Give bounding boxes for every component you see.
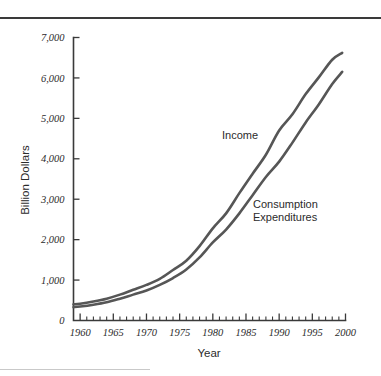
y-axis-ticks [74, 38, 80, 281]
axes [74, 38, 346, 321]
line-chart-plot: 01,0002,0003,0004,0005,0006,0007,000 196… [0, 0, 381, 376]
y-tick-label: 7,000 [41, 32, 65, 43]
y-axis-tick-labels: 01,0002,0003,0004,0005,0006,0007,000 [40, 32, 65, 326]
series-annotations: IncomeConsumptionExpenditures [222, 129, 318, 223]
axis-lines [74, 38, 346, 321]
x-tick-label: 1990 [269, 327, 291, 338]
y-tick-label: 2,000 [41, 234, 65, 245]
chart-figure: 01,0002,0003,0004,0005,0006,0007,000 196… [0, 0, 381, 376]
series-line-income [74, 53, 343, 304]
x-axis-tick-labels: 196019651970197519801985199019952000 [70, 327, 357, 338]
series-annotation-label: Income [222, 129, 258, 141]
x-axis-title: Year [197, 347, 220, 359]
x-tick-label: 1980 [202, 327, 224, 338]
data-series-group [74, 53, 343, 307]
x-tick-label: 1985 [235, 327, 256, 338]
series-annotation-label: Consumption [253, 198, 318, 210]
x-tick-label: 2000 [335, 327, 357, 338]
series-line-consumption-expenditures [74, 72, 343, 307]
y-tick-label: 0 [59, 315, 65, 326]
x-tick-label: 1995 [302, 327, 323, 338]
x-tick-label: 1970 [136, 327, 158, 338]
y-tick-label: 4,000 [41, 153, 65, 164]
series-annotation-label: Expenditures [253, 211, 318, 223]
x-axis-ticks [80, 314, 345, 321]
y-tick-label: 1,000 [41, 275, 65, 286]
y-axis-title: Billion Dollars [19, 145, 31, 215]
x-tick-label: 1960 [70, 327, 92, 338]
y-tick-label: 6,000 [41, 73, 65, 84]
x-tick-label: 1965 [103, 327, 124, 338]
y-tick-label: 3,000 [40, 194, 65, 205]
x-tick-label: 1975 [169, 327, 190, 338]
y-tick-label: 5,000 [41, 113, 65, 124]
